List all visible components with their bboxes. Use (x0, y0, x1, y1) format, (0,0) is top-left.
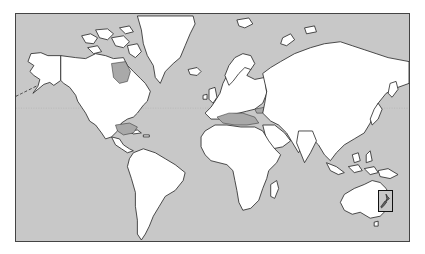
mediterranean-sea (217, 113, 259, 125)
greenland (137, 16, 195, 83)
madagascar (271, 181, 279, 199)
central-america (112, 137, 134, 153)
north-america (61, 54, 151, 139)
iceland (188, 68, 201, 76)
new-zealand-svg (379, 191, 392, 211)
new-guinea (378, 169, 398, 179)
india (297, 131, 317, 163)
canadian-arctic-islands (82, 26, 142, 58)
alaska (28, 53, 61, 94)
new-zealand-north-island (386, 194, 389, 201)
world-map (15, 13, 410, 242)
svalbard (237, 18, 253, 28)
new-zealand-south-island (381, 201, 387, 208)
new-zealand-inset (378, 190, 393, 212)
british-isles (203, 87, 217, 103)
novaya-zemlya (281, 26, 317, 46)
south-america (127, 149, 185, 240)
world-map-svg (16, 14, 409, 241)
tasmania (374, 221, 378, 226)
